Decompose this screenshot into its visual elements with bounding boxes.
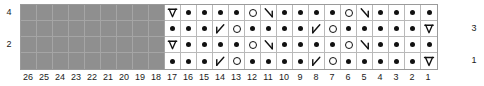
chart-row — [21, 5, 437, 21]
chart-cell-yarn-over — [325, 21, 341, 37]
chart-cell-purl — [261, 21, 277, 37]
yarn-over-icon — [245, 5, 260, 20]
chart-cell-no-stitch — [133, 21, 149, 37]
chart-cell-purl — [181, 37, 197, 53]
chart-cell-no-stitch — [101, 5, 117, 21]
left-leaning-decrease-icon — [213, 21, 228, 36]
centered-double-decrease-icon — [421, 53, 437, 69]
purl-icon — [405, 21, 420, 36]
chart-cell-purl — [197, 53, 213, 69]
column-label-7: 7 — [324, 72, 340, 82]
chart-cell-left-leaning-decrease — [309, 21, 325, 37]
purl-icon — [197, 5, 212, 20]
purl-icon — [389, 37, 404, 52]
right-leaning-decrease-icon — [261, 5, 276, 20]
purl-icon — [245, 53, 260, 69]
chart-cell-no-stitch — [53, 53, 69, 69]
knitting-chart: 2625242322212019181716151413121110987654… — [0, 0, 484, 86]
chart-cell-purl — [277, 21, 293, 37]
chart-cell-purl — [325, 37, 341, 53]
purl-icon — [341, 53, 356, 69]
column-label-8: 8 — [308, 72, 324, 82]
chart-cell-purl — [405, 21, 421, 37]
chart-cell-purl — [261, 53, 277, 69]
chart-cell-purl — [373, 21, 389, 37]
chart-cell-purl — [277, 53, 293, 69]
purl-icon — [325, 5, 340, 20]
purl-icon — [181, 5, 196, 20]
left-leaning-decrease-icon — [309, 21, 324, 36]
chart-row — [21, 21, 437, 37]
chart-cell-purl — [373, 5, 389, 21]
chart-cell-yarn-over — [341, 37, 357, 53]
chart-cell-purl — [181, 21, 197, 37]
chart-cell-purl — [197, 21, 213, 37]
chart-cell-purl — [293, 37, 309, 53]
column-label-axis: 2625242322212019181716151413121110987654… — [20, 72, 436, 82]
chart-cell-no-stitch — [117, 37, 133, 53]
column-label-9: 9 — [292, 72, 308, 82]
chart-cell-no-stitch — [149, 37, 165, 53]
chart-cell-purl — [213, 37, 229, 53]
chart-cell-yarn-over — [341, 5, 357, 21]
chart-cell-no-stitch — [69, 5, 85, 21]
chart-cell-no-stitch — [53, 37, 69, 53]
chart-cell-no-stitch — [37, 5, 53, 21]
purl-icon — [277, 21, 292, 36]
chart-cell-right-leaning-decrease — [261, 37, 277, 53]
purl-icon — [389, 5, 404, 20]
chart-cell-right-leaning-decrease — [261, 5, 277, 21]
chart-cell-purl — [421, 5, 437, 21]
column-label-16: 16 — [180, 72, 196, 82]
column-label-22: 22 — [84, 72, 100, 82]
yarn-over-icon — [325, 53, 340, 69]
chart-cell-purl — [277, 5, 293, 21]
chart-cell-purl — [357, 53, 373, 69]
chart-cell-no-stitch — [69, 53, 85, 69]
yarn-over-icon — [341, 5, 356, 20]
chart-cell-no-stitch — [133, 5, 149, 21]
purl-icon — [293, 5, 308, 20]
purl-icon — [277, 53, 292, 69]
chart-cell-no-stitch — [21, 53, 37, 69]
purl-icon — [213, 5, 228, 20]
chart-cell-no-stitch — [37, 53, 53, 69]
chart-cell-purl — [357, 21, 373, 37]
purl-icon — [341, 21, 356, 36]
purl-icon — [293, 37, 308, 52]
row-label-left-2: 2 — [1, 36, 17, 52]
chart-cell-no-stitch — [85, 5, 101, 21]
chart-cell-purl — [389, 5, 405, 21]
column-label-21: 21 — [100, 72, 116, 82]
chart-cell-purl — [405, 37, 421, 53]
yarn-over-icon — [245, 37, 260, 52]
purl-icon — [197, 37, 212, 52]
column-label-24: 24 — [52, 72, 68, 82]
chart-cell-no-stitch — [117, 53, 133, 69]
chart-cell-purl — [277, 37, 293, 53]
purl-icon — [197, 21, 212, 36]
chart-cell-purl — [373, 37, 389, 53]
chart-cell-no-stitch — [69, 37, 85, 53]
chart-cell-yarn-over — [245, 37, 261, 53]
purl-icon — [357, 21, 372, 36]
chart-cell-purl — [165, 53, 181, 69]
right-leaning-decrease-icon — [357, 5, 372, 20]
column-label-13: 13 — [228, 72, 244, 82]
column-label-23: 23 — [68, 72, 84, 82]
chart-cell-no-stitch — [53, 5, 69, 21]
chart-cell-right-leaning-decrease — [357, 37, 373, 53]
column-label-5: 5 — [356, 72, 372, 82]
chart-cell-left-leaning-decrease — [213, 53, 229, 69]
purl-icon — [229, 37, 244, 52]
purl-icon — [373, 37, 388, 52]
chart-cell-purl — [341, 21, 357, 37]
column-label-4: 4 — [372, 72, 388, 82]
purl-icon — [309, 5, 324, 20]
purl-icon — [277, 37, 292, 52]
column-label-1: 1 — [420, 72, 436, 82]
chart-cell-left-leaning-decrease — [309, 53, 325, 69]
purl-icon — [373, 5, 388, 20]
chart-cell-no-stitch — [85, 53, 101, 69]
chart-cell-no-stitch — [37, 37, 53, 53]
